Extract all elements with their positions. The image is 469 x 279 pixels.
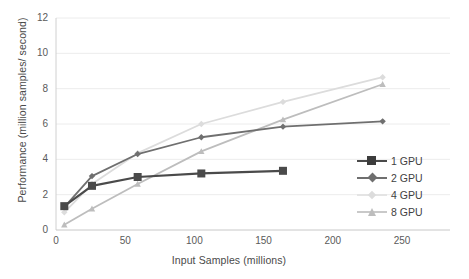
x-tick-200: 200 <box>316 236 350 246</box>
y-tick-8: 8 <box>26 84 48 94</box>
series-1-gpu <box>60 167 287 210</box>
legend-label-2gpu: 2 GPU <box>387 172 423 184</box>
x-tick-250: 250 <box>385 236 419 246</box>
square-marker-icon <box>197 169 205 177</box>
square-marker-icon <box>88 182 96 190</box>
legend-item-4gpu[interactable]: 4 GPU <box>357 186 423 203</box>
y-tick-6: 6 <box>26 119 48 129</box>
legend-swatch-1gpu <box>357 154 387 168</box>
y-tick-0: 0 <box>26 225 48 235</box>
legend-item-8gpu[interactable]: 8 GPU <box>357 203 423 220</box>
x-tick-150: 150 <box>247 236 281 246</box>
legend-label-8gpu: 8 GPU <box>387 206 423 218</box>
chart-container: Performance (million samples/ second) In… <box>0 0 469 279</box>
legend-swatch-4gpu <box>357 188 387 202</box>
cross-marker-icon <box>368 190 376 198</box>
cross-marker-icon <box>280 99 286 105</box>
x-axis-title: Input Samples (millions) <box>56 254 402 266</box>
y-tick-10: 10 <box>26 48 48 58</box>
legend-label-1gpu: 1 GPU <box>387 155 423 167</box>
diamond-marker-icon <box>367 173 377 183</box>
y-axis-title: Performance (million samples/ second) <box>16 5 28 215</box>
legend-label-4gpu: 4 GPU <box>387 189 423 201</box>
series-line <box>64 84 382 224</box>
square-marker-icon <box>367 156 376 165</box>
legend-item-1gpu[interactable]: 1 GPU <box>357 152 423 169</box>
legend-item-2gpu[interactable]: 2 GPU <box>357 169 423 186</box>
legend-swatch-2gpu <box>357 171 387 185</box>
chart-legend: 1 GPU 2 GPU 4 GPU 8 GPU <box>357 152 423 220</box>
triangle-marker-icon <box>368 208 376 216</box>
cross-marker-icon <box>198 121 204 127</box>
square-marker-icon <box>134 173 142 181</box>
series-8-gpu <box>61 81 386 227</box>
legend-swatch-8gpu <box>357 205 387 219</box>
y-tick-12: 12 <box>26 13 48 23</box>
cross-marker-icon <box>379 74 385 80</box>
square-marker-icon <box>279 167 287 175</box>
diamond-marker-icon <box>198 134 204 140</box>
series-line <box>64 77 382 212</box>
series-line <box>64 171 283 206</box>
x-tick-0: 0 <box>39 236 73 246</box>
y-tick-2: 2 <box>26 190 48 200</box>
y-tick-4: 4 <box>26 154 48 164</box>
triangle-marker-icon <box>379 81 385 87</box>
square-marker-icon <box>60 202 68 210</box>
x-tick-100: 100 <box>177 236 211 246</box>
x-tick-50: 50 <box>108 236 142 246</box>
series-2-gpu <box>61 118 386 210</box>
